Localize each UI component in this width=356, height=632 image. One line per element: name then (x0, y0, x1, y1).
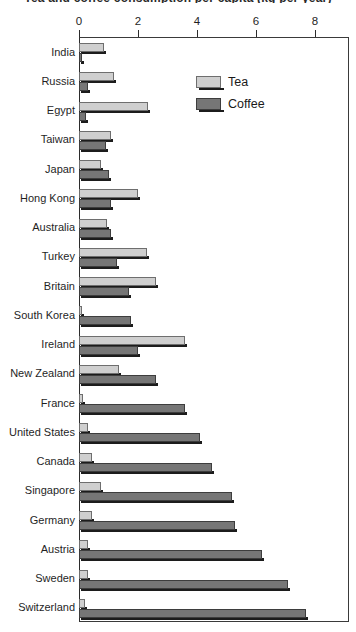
bar-coffee-sweden (79, 580, 288, 589)
y-label-russia: Russia (0, 75, 75, 87)
bar-coffee-united-states (79, 433, 200, 442)
bar-tea-france (79, 394, 83, 403)
bar-group (79, 417, 349, 446)
y-label-new-zealand: New Zealand (0, 367, 75, 379)
x-tick-mark-2 (138, 30, 139, 37)
y-label-switzerland: Switzerland (0, 601, 75, 613)
bar-group (79, 300, 349, 329)
bar-tea-south-korea (79, 306, 82, 315)
bar-tea-germany (79, 511, 92, 520)
bar-group (79, 388, 349, 417)
bar-tea-united-states (79, 423, 88, 432)
bar-coffee-hong-kong (79, 199, 111, 208)
bar-group (79, 37, 349, 66)
bar-coffee-france (79, 404, 185, 413)
bar-coffee-taiwan (79, 141, 106, 150)
bar-group (79, 593, 349, 622)
bar-tea-hong-kong (79, 189, 138, 198)
bar-tea-sweden (79, 570, 88, 579)
bar-coffee-austria (79, 550, 262, 559)
y-label-japan: Japan (0, 163, 75, 175)
y-label-egypt: Egypt (0, 104, 75, 116)
bar-tea-ireland (79, 336, 185, 345)
bar-tea-new-zealand (79, 365, 119, 374)
bar-group (79, 125, 349, 154)
bar-coffee-south-korea (79, 316, 131, 325)
legend-label-coffee: Coffee (228, 97, 265, 111)
bar-group (79, 330, 349, 359)
bar-coffee-india (79, 53, 82, 62)
y-label-taiwan: Taiwan (0, 133, 75, 145)
bar-coffee-singapore (79, 492, 232, 501)
legend-swatch-coffee (196, 98, 221, 110)
bar-tea-egypt (79, 102, 148, 111)
y-label-india: India (0, 46, 75, 58)
bar-coffee-canada (79, 463, 212, 472)
bar-coffee-ireland (79, 346, 138, 355)
chart-legend: TeaCoffee (196, 72, 288, 116)
bar-group (79, 271, 349, 300)
y-axis-category-labels: IndiaRussiaEgyptTaiwanJapanHong KongAust… (0, 37, 75, 622)
y-label-south-korea: South Korea (0, 309, 75, 321)
bar-chart: Tea and coffee consumption per capita (k… (0, 0, 356, 632)
x-tick-label-4: 4 (194, 14, 200, 28)
bar-tea-singapore (79, 482, 101, 491)
x-tick-label-6: 6 (253, 14, 259, 28)
bar-group (79, 154, 349, 183)
y-label-britain: Britain (0, 280, 75, 292)
bar-coffee-germany (79, 521, 235, 530)
y-label-singapore: Singapore (0, 484, 75, 496)
bar-tea-india (79, 43, 104, 52)
legend-label-tea: Tea (228, 75, 248, 89)
bar-tea-britain (79, 277, 156, 286)
y-label-france: France (0, 397, 75, 409)
bar-coffee-egypt (79, 112, 86, 121)
bar-group (79, 505, 349, 534)
x-axis-tick-labels: 02468 (0, 14, 356, 30)
bar-coffee-russia (79, 82, 88, 91)
bar-group (79, 476, 349, 505)
bar-tea-switzerland (79, 599, 85, 608)
bar-tea-turkey (79, 248, 147, 257)
bar-group (79, 359, 349, 388)
bar-tea-taiwan (79, 131, 111, 140)
y-label-germany: Germany (0, 514, 75, 526)
bar-group (79, 534, 349, 563)
bar-coffee-australia (79, 229, 111, 238)
y-label-united-states: United States (0, 426, 75, 438)
y-label-australia: Australia (0, 221, 75, 233)
y-label-hong-kong: Hong Kong (0, 192, 75, 204)
bar-group (79, 447, 349, 476)
bar-group (79, 213, 349, 242)
y-label-austria: Austria (0, 543, 75, 555)
y-label-turkey: Turkey (0, 250, 75, 262)
bar-group (79, 242, 349, 271)
y-label-ireland: Ireland (0, 338, 75, 350)
y-label-canada: Canada (0, 455, 75, 467)
chart-title: Tea and coffee consumption per capita (k… (0, 0, 356, 3)
bar-coffee-new-zealand (79, 375, 156, 384)
x-tick-mark-8 (315, 30, 316, 37)
bar-coffee-britain (79, 287, 129, 296)
legend-entry-coffee: Coffee (196, 94, 288, 113)
bar-tea-austria (79, 540, 88, 549)
legend-swatch-tea (196, 76, 221, 88)
bar-group (79, 183, 349, 212)
x-tick-label-0: 0 (76, 14, 82, 28)
y-label-sweden: Sweden (0, 572, 75, 584)
bar-tea-canada (79, 453, 92, 462)
bar-tea-japan (79, 160, 101, 169)
legend-entry-tea: Tea (196, 72, 288, 91)
bar-rows-layer (79, 37, 349, 622)
bar-coffee-turkey (79, 258, 117, 267)
x-tick-label-8: 8 (312, 14, 318, 28)
bar-coffee-japan (79, 170, 109, 179)
bar-tea-russia (79, 72, 114, 81)
x-tick-mark-6 (256, 30, 257, 37)
x-tick-mark-4 (197, 30, 198, 37)
x-tick-label-2: 2 (135, 14, 141, 28)
bar-coffee-switzerland (79, 609, 306, 618)
x-tick-mark-0 (79, 30, 80, 37)
bar-group (79, 564, 349, 593)
bar-tea-australia (79, 219, 107, 228)
